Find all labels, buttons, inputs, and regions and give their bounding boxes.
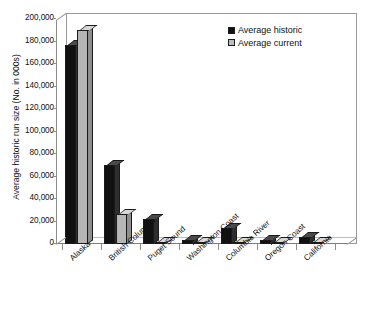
y-axis-tick-label: 40,000 (4, 193, 54, 202)
chart-legend: Average historic Average current (228, 24, 302, 49)
bar-group (140, 20, 179, 244)
bar-historic (260, 240, 271, 245)
bar-top (107, 160, 124, 165)
y-axis-tick-label: 200,000 (4, 13, 54, 22)
bar-face (104, 165, 115, 244)
bar-historic (182, 240, 193, 245)
y-axis-tick-label: 0 (4, 238, 54, 247)
bar-groups (56, 20, 347, 244)
bar-top (119, 209, 136, 214)
bar-group (179, 20, 218, 244)
x-axis-tick-mark (335, 244, 336, 250)
plot-area (56, 20, 347, 244)
x-axis-tick-mark (218, 244, 219, 250)
legend-item-average-current: Average current (228, 37, 302, 50)
y-axis-tick-label: 160,000 (4, 58, 54, 67)
y-axis-tick-label: 120,000 (4, 103, 54, 112)
x-axis-tick-mark (257, 244, 258, 250)
y-axis-tick-label: 180,000 (4, 36, 54, 45)
y-axis-tick-label: 60,000 (4, 171, 54, 180)
x-axis-tick-mark (296, 244, 297, 250)
bar-current (77, 30, 88, 244)
bar-top (302, 232, 319, 237)
bar-face (182, 240, 193, 245)
y-axis-tick-label: 20,000 (4, 216, 54, 225)
legend-label-current: Average current (238, 37, 302, 50)
legend-swatch-historic-icon (228, 27, 235, 34)
x-axis-tick-mark (62, 244, 63, 250)
x-axis-tick-mark (179, 244, 180, 250)
bar-top (80, 25, 97, 30)
bar-group (101, 20, 140, 244)
bar-face (299, 237, 310, 244)
legend-item-average-historic: Average historic (228, 24, 302, 37)
bar-historic (104, 165, 115, 244)
bar-face (260, 240, 271, 245)
bar-group (257, 20, 296, 244)
bar-chart: Average historic run size (No. in 000s) … (0, 0, 372, 333)
bar-group (296, 20, 335, 244)
bar-side (88, 26, 93, 244)
legend-label-historic: Average historic (238, 24, 302, 37)
x-axis-tick-mark (101, 244, 102, 250)
y-axis-tick-labels: 020,00040,00060,00080,000100,000120,0001… (0, 0, 54, 333)
legend-swatch-current-icon (228, 39, 235, 46)
bar-group (218, 20, 257, 244)
x-axis-tick-mark (140, 244, 141, 250)
bar-historic (65, 45, 76, 244)
bar-face (65, 45, 76, 244)
y-axis-tick-label: 80,000 (4, 148, 54, 157)
y-axis-tick-label: 140,000 (4, 81, 54, 90)
bar-group (62, 20, 101, 244)
y-axis-tick-label: 100,000 (4, 126, 54, 135)
bar-face (77, 30, 88, 244)
bar-historic (299, 237, 310, 244)
